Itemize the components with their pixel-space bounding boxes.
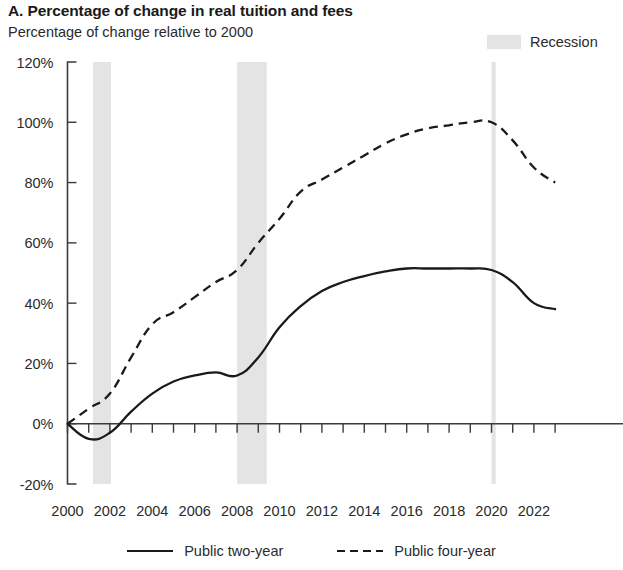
y-axis-tick-label: 80% [24, 175, 53, 191]
y-axis-labels-group: 120%100%80%60%40%20%0%-20% [16, 55, 53, 493]
x-axis-tick-label: 2022 [518, 503, 550, 519]
x-axis-tick-label: 2016 [391, 503, 423, 519]
axes-group [68, 62, 623, 484]
recession-band [93, 62, 111, 484]
recession-bands-group [93, 62, 496, 484]
x-axis-tick-label: 2018 [433, 503, 465, 519]
series-legend: Public two-year Public four-year [0, 538, 623, 564]
legend-entry-public-two-year: Public two-year [127, 543, 283, 559]
legend-entry-public-four-year: Public four-year [337, 543, 496, 559]
x-axis-tick-label: 2002 [94, 503, 126, 519]
recession-band [237, 62, 267, 484]
x-axis-tick-label: 2006 [179, 503, 211, 519]
data-series-line [68, 120, 556, 423]
x-axis-tick-label: 2014 [348, 503, 380, 519]
y-axis-tick-label: -20% [20, 477, 54, 493]
figure-panel-a: A. Percentage of change in real tuition … [0, 0, 623, 570]
legend-label-public-four-year: Public four-year [394, 543, 496, 559]
solid-line-key-icon [127, 550, 173, 552]
x-axis-tick-label: 2004 [136, 503, 168, 519]
y-axis-tick-label: 20% [24, 356, 53, 372]
dashed-line-key-icon [337, 550, 383, 552]
legend-label-public-two-year: Public two-year [184, 543, 283, 559]
y-axis-tick-label: 120% [16, 55, 53, 71]
x-axis-labels-group: 2000200220042006200820102012201420162018… [51, 503, 550, 519]
y-axis-tick-label: 100% [16, 115, 53, 131]
x-axis-tick-label: 2010 [263, 503, 295, 519]
x-axis-tick-label: 2008 [221, 503, 253, 519]
y-axis-ticks-group [68, 122, 77, 423]
data-series-group [68, 120, 556, 439]
data-series-line [68, 268, 556, 439]
y-axis-tick-label: 60% [24, 235, 53, 251]
x-axis-tick-label: 2000 [51, 503, 83, 519]
line-chart-plot: 120%100%80%60%40%20%0%-20% 2000200220042… [0, 0, 623, 570]
x-axis-ticks-group [68, 424, 556, 433]
y-axis-tick-label: 0% [33, 416, 54, 432]
y-axis-tick-label: 40% [24, 296, 53, 312]
x-axis-tick-label: 2020 [475, 503, 507, 519]
x-axis-tick-label: 2012 [306, 503, 338, 519]
